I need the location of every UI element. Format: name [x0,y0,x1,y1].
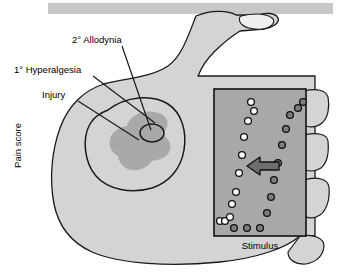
data-point [241,134,248,141]
inset-scatter-chart [214,89,306,236]
thumb-nail [239,14,273,29]
data-point [287,112,294,119]
chart-x-axis-label: Stimulus [214,240,306,251]
data-point [264,210,271,217]
data-point [227,214,234,221]
data-point [244,225,251,232]
data-point [231,225,238,232]
data-point [268,194,275,201]
data-point [251,108,258,115]
data-point [239,152,246,159]
top-banner [48,3,333,14]
data-point [229,201,236,208]
label-allodynia: 2° Allodynia [72,35,122,45]
data-point [257,225,264,232]
data-point [233,189,240,196]
data-point [245,118,252,125]
data-point [248,99,255,106]
data-point [236,170,243,177]
data-point [279,142,286,149]
chart-y-axis-label: Pain score [12,109,23,183]
pain-sensitization-figure [0,0,339,273]
data-point [295,105,302,112]
label-injury: Injury [42,90,65,100]
label-hyperalgesia: 1° Hyperalgesia [14,65,81,75]
data-point [271,177,278,184]
data-point [300,99,307,106]
data-point [283,126,290,133]
